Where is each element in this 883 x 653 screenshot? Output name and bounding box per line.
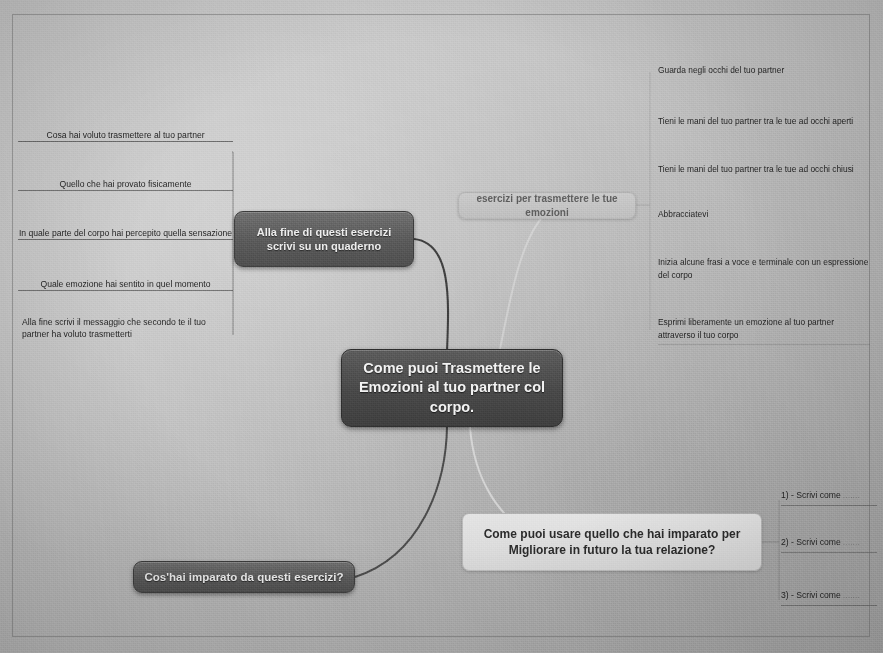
- esercizi-item-1-label: Guarda negli occhi del tuo partner: [658, 65, 784, 75]
- migliorare-item-2-label: 2) - Scrivi come: [781, 537, 841, 547]
- quaderno-item-2[interactable]: Quello che hai provato fisicamente: [18, 178, 233, 191]
- quaderno-item-2-label: Quello che hai provato fisicamente: [60, 179, 192, 189]
- esercizi-item-6[interactable]: Esprimi liberamente un emozione al tuo p…: [658, 316, 870, 345]
- branch-node-esercizi[interactable]: esercizi per trasmettere le tue emozioni: [458, 192, 636, 219]
- migliorare-item-3[interactable]: 3) - Scrivi come .......: [781, 589, 877, 606]
- branch-node-migliorare[interactable]: Come puoi usare quello che hai imparato …: [462, 513, 762, 571]
- esercizi-item-6-label: Esprimi liberamente un emozione al tuo p…: [658, 317, 834, 340]
- migliorare-item-3-dots: .......: [843, 592, 860, 599]
- esercizi-item-2[interactable]: Tieni le mani del tuo partner tra le tue…: [658, 115, 870, 128]
- esercizi-item-4[interactable]: Abbracciatevi: [658, 208, 870, 221]
- migliorare-item-2[interactable]: 2) - Scrivi come .......: [781, 536, 877, 553]
- migliorare-item-1[interactable]: 1) - Scrivi come .......: [781, 489, 877, 506]
- quaderno-item-1[interactable]: Cosa hai voluto trasmettere al tuo partn…: [18, 129, 233, 142]
- quaderno-item-1-label: Cosa hai voluto trasmettere al tuo partn…: [46, 130, 204, 140]
- esercizi-item-2-label: Tieni le mani del tuo partner tra le tue…: [658, 116, 853, 126]
- esercizi-item-5[interactable]: Inizia alcune frasi a voce e terminale c…: [658, 256, 870, 281]
- esercizi-item-1[interactable]: Guarda negli occhi del tuo partner: [658, 64, 870, 77]
- quaderno-item-3-label: In quale parte del corpo hai percepito q…: [19, 228, 232, 238]
- branch-node-quaderno-label: Alla fine di questi esercizi scrivi su u…: [244, 225, 404, 254]
- esercizi-item-3[interactable]: Tieni le mani del tuo partner tra le tue…: [658, 163, 870, 176]
- migliorare-item-2-dots: .......: [843, 539, 860, 546]
- mindmap-canvas: Come puoi Trasmettere le Emozioni al tuo…: [0, 0, 883, 653]
- branch-node-migliorare-line2: Migliorare in futuro la tua relazione?: [509, 543, 716, 557]
- quaderno-item-4[interactable]: Quale emozione hai sentito in quel momen…: [18, 278, 233, 291]
- esercizi-item-4-label: Abbracciatevi: [658, 209, 708, 219]
- migliorare-item-1-dots: .......: [843, 492, 860, 499]
- branch-node-migliorare-line1: Come puoi usare quello che hai imparato …: [484, 527, 741, 541]
- quaderno-item-4-label: Quale emozione hai sentito in quel momen…: [40, 279, 210, 289]
- quaderno-item-5[interactable]: Alla fine scrivi il messaggio che second…: [22, 316, 234, 341]
- quaderno-item-3[interactable]: In quale parte del corpo hai percepito q…: [18, 227, 233, 240]
- central-node[interactable]: Come puoi Trasmettere le Emozioni al tuo…: [341, 349, 563, 427]
- branch-node-imparato[interactable]: Cos'hai imparato da questi esercizi?: [133, 561, 355, 593]
- esercizi-item-5-label: Inizia alcune frasi a voce e terminale c…: [658, 257, 868, 280]
- quaderno-item-5-label: Alla fine scrivi il messaggio che second…: [22, 317, 206, 339]
- esercizi-item-3-label: Tieni le mani del tuo partner tra le tue…: [658, 164, 854, 174]
- migliorare-item-1-label: 1) - Scrivi come: [781, 490, 841, 500]
- central-node-line2: Emozioni al tuo partner col corpo.: [359, 379, 545, 414]
- branch-node-esercizi-label: esercizi per trasmettere le tue emozioni: [469, 192, 625, 219]
- central-node-line1: Come puoi Trasmettere le: [363, 360, 540, 376]
- migliorare-item-3-label: 3) - Scrivi come: [781, 590, 841, 600]
- branch-node-imparato-label: Cos'hai imparato da questi esercizi?: [145, 570, 344, 585]
- branch-node-quaderno[interactable]: Alla fine di questi esercizi scrivi su u…: [234, 211, 414, 267]
